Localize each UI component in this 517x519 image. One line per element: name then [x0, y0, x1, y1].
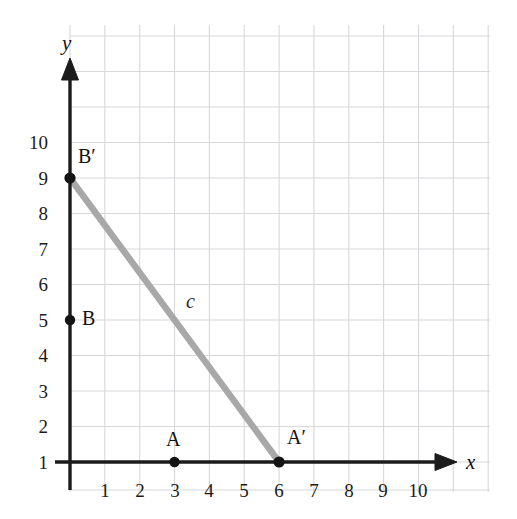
coordinate-plane-svg [0, 0, 517, 519]
x-tick-1: 1 [88, 481, 122, 500]
y-tick-3: 3 [14, 382, 48, 401]
point-label-a: A [166, 429, 180, 449]
point-label-a-prime: A′ [287, 427, 306, 447]
y-tick-2: 2 [14, 417, 48, 436]
x-tick-9: 9 [366, 481, 400, 500]
y-tick-5: 5 [14, 311, 48, 330]
x-tick-7: 7 [297, 481, 331, 500]
point-b [65, 315, 75, 325]
y-axis-label: y [62, 33, 71, 54]
y-tick-1: 1 [14, 453, 48, 472]
y-tick-7: 7 [14, 240, 48, 259]
x-tick-8: 8 [332, 481, 366, 500]
point-a [169, 457, 179, 467]
point-label-b: B [82, 308, 95, 328]
x-tick-6: 6 [262, 481, 296, 500]
y-axis-arrowhead [62, 58, 79, 80]
y-tick-6: 6 [14, 275, 48, 294]
y-tick-9: 9 [14, 169, 48, 188]
point-b-prime [64, 172, 75, 183]
x-tick-3: 3 [158, 481, 192, 500]
y-tick-10: 10 [8, 133, 48, 152]
x-axis-label: x [466, 452, 475, 473]
y-tick-8: 8 [14, 204, 48, 223]
x-tick-2: 2 [123, 481, 157, 500]
x-tick-4: 4 [192, 481, 226, 500]
figure-canvas: y x 1 2 3 4 5 6 7 8 9 10 1 2 3 4 5 6 7 8… [0, 0, 517, 519]
point-label-b-prime: B′ [78, 146, 96, 166]
x-tick-10: 10 [398, 481, 438, 500]
x-tick-5: 5 [227, 481, 261, 500]
point-a-prime [274, 456, 285, 467]
y-tick-4: 4 [14, 346, 48, 365]
line-label-c: c [186, 291, 195, 311]
